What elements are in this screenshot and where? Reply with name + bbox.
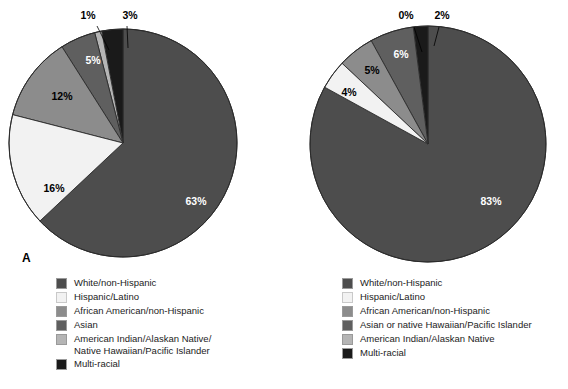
panel-b: 0% 2% 83% 4% 5% 6% B White/non-HispanicH… xyxy=(284,0,568,389)
legend-item[interactable]: White/non-Hispanic xyxy=(342,277,566,290)
legend-item-label: African American/non-Hispanic xyxy=(360,305,490,317)
pie-b-label-hispanic: 4% xyxy=(341,86,357,98)
pie-b-label-african-american: 5% xyxy=(364,64,380,76)
legend-swatch-icon xyxy=(56,292,67,303)
pie-a-label-white: 63% xyxy=(185,195,207,207)
figure-two-pie-charts: 1% 3% 63% 16% 12% 5% A White/non-Hispani… xyxy=(0,0,568,389)
legend-swatch-icon xyxy=(56,359,67,370)
legend-item[interactable]: African American/non-Hispanic xyxy=(56,305,280,318)
legend-item-label: African American/non-Hispanic xyxy=(74,305,204,317)
legend-a: White/non-HispanicHispanic/LatinoAfrican… xyxy=(56,277,280,372)
legend-item-label: Hispanic/Latino xyxy=(74,291,139,303)
pie-a-label-american-indian: 1% xyxy=(80,9,96,21)
legend-item[interactable]: Asian or native Hawaiian/Pacific Islande… xyxy=(342,319,566,332)
legend-swatch-icon xyxy=(342,334,353,345)
pie-a-label-hispanic: 16% xyxy=(43,182,65,194)
legend-item[interactable]: Hispanic/Latino xyxy=(342,291,566,304)
legend-item[interactable]: American Indian/Alaskan Native xyxy=(342,333,566,346)
legend-item[interactable]: Hispanic/Latino xyxy=(56,291,280,304)
legend-item-label: Multi-racial xyxy=(74,358,120,370)
legend-swatch-icon xyxy=(56,320,67,331)
legend-swatch-icon xyxy=(342,278,353,289)
pie-chart-b: 0% 2% 83% 4% 5% 6% xyxy=(284,0,568,275)
legend-item-label: Hispanic/Latino xyxy=(360,291,425,303)
legend-item-label: White/non-Hispanic xyxy=(360,277,442,289)
legend-item[interactable]: Multi-racial xyxy=(56,358,280,371)
legend-item-label: Asian or native Hawaiian/Pacific Islande… xyxy=(360,319,532,331)
legend-item-label: American Indian/Alaskan Native/ Native H… xyxy=(74,333,211,357)
panel-letter-a: A xyxy=(22,251,31,265)
pie-b-label-asian: 6% xyxy=(393,48,409,60)
pie-a-label-asian: 5% xyxy=(85,54,101,66)
legend-swatch-icon xyxy=(342,320,353,331)
pie-b-label-multi-racial: 2% xyxy=(434,9,450,21)
legend-item-label: American Indian/Alaskan Native xyxy=(360,333,495,345)
legend-swatch-icon xyxy=(56,306,67,317)
legend-swatch-icon xyxy=(342,306,353,317)
legend-item[interactable]: Multi-racial xyxy=(342,347,566,360)
pie-b-label-white: 83% xyxy=(480,195,502,207)
legend-swatch-icon xyxy=(56,278,67,289)
pie-a-label-african-american: 12% xyxy=(51,90,73,102)
legend-swatch-icon xyxy=(342,348,353,359)
legend-swatch-icon xyxy=(342,292,353,303)
panel-a: 1% 3% 63% 16% 12% 5% A White/non-Hispani… xyxy=(0,0,284,389)
legend-item-label: White/non-Hispanic xyxy=(74,277,156,289)
legend-item[interactable]: African American/non-Hispanic xyxy=(342,305,566,318)
legend-swatch-icon xyxy=(56,334,67,345)
pie-a-label-multi-racial: 3% xyxy=(122,9,138,21)
legend-item-label: Multi-racial xyxy=(360,347,406,359)
legend-item[interactable]: American Indian/Alaskan Native/ Native H… xyxy=(56,333,280,357)
pie-b-label-american-indian: 0% xyxy=(398,9,414,21)
pie-b-svg: 0% 2% 83% 4% 5% 6% xyxy=(284,0,568,275)
legend-item-label: Asian xyxy=(74,319,98,331)
pie-chart-a: 1% 3% 63% 16% 12% 5% xyxy=(0,0,284,275)
pie-a-svg: 1% 3% 63% 16% 12% 5% xyxy=(0,0,284,275)
legend-item[interactable]: White/non-Hispanic xyxy=(56,277,280,290)
legend-item[interactable]: Asian xyxy=(56,319,280,332)
legend-b: White/non-HispanicHispanic/LatinoAfrican… xyxy=(342,277,566,361)
